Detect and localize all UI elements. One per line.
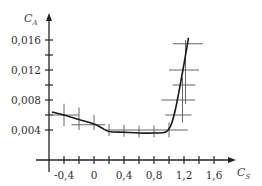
chart: -0,400,40,81,21,6 0,0040,0080,0120,016 C… bbox=[0, 0, 262, 186]
x-tick-label: 1,6 bbox=[206, 169, 223, 181]
x-tick-label: 0,4 bbox=[116, 169, 133, 181]
y-tick-label: 0,012 bbox=[11, 64, 41, 76]
y-ticks: 0,0040,0080,0120,016 bbox=[11, 34, 53, 136]
y-tick-label: 0,004 bbox=[11, 124, 41, 136]
x-axis-label: CS bbox=[237, 166, 250, 181]
data-curve bbox=[52, 38, 189, 133]
x-tick-label: -0,4 bbox=[54, 169, 75, 181]
axes bbox=[36, 13, 236, 172]
x-tick-label: 1,2 bbox=[176, 169, 193, 181]
x-axis-arrow-icon bbox=[228, 157, 236, 163]
y-tick-label: 0,008 bbox=[11, 94, 41, 106]
y-axis-label: CA bbox=[24, 12, 37, 27]
y-tick-label: 0,016 bbox=[11, 34, 41, 46]
x-tick-label: 0 bbox=[91, 169, 98, 181]
y-axis-arrow-icon bbox=[46, 13, 52, 21]
x-tick-label: 0,8 bbox=[146, 169, 163, 181]
